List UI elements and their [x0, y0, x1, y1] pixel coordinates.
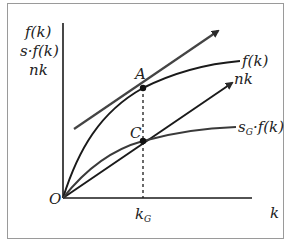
- point-c-label: C: [130, 124, 142, 142]
- savings-label-rest: ·f(k): [253, 118, 284, 136]
- solow-diagram: f(k) s·f(k) nk f(k) nk sG·f(k) A C O kG …: [0, 0, 293, 243]
- y-axis-label-nk: nk: [29, 61, 48, 79]
- nk-line-label: nk: [234, 70, 253, 88]
- point-a: [140, 85, 146, 91]
- point-a-label: A: [133, 65, 146, 83]
- y-axis-label-fk: f(k): [24, 23, 51, 41]
- k-golden-label: kG: [135, 205, 151, 224]
- origin-label: O: [49, 190, 61, 208]
- production-function-curve: [63, 61, 240, 198]
- savings-curve-label: sG·f(k): [238, 118, 284, 137]
- savings-label-sub: G: [246, 127, 253, 137]
- k-golden-main: k: [135, 205, 144, 223]
- tangent-line: [74, 31, 218, 129]
- fk-curve-label: f(k): [241, 52, 268, 70]
- k-golden-sub: G: [144, 214, 151, 224]
- x-axis-label: k: [270, 204, 279, 222]
- y-axis-label-sfk: s·f(k): [20, 42, 59, 60]
